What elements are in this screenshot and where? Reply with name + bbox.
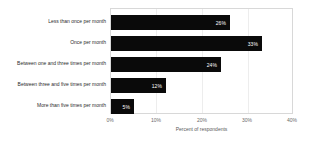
bar-4[interactable]: 5% — [111, 99, 134, 114]
category-label-3: Between three and five times per month — [0, 81, 106, 88]
category-label-4: More than five times per month — [0, 102, 106, 109]
bar-row[interactable]: 5% — [111, 99, 134, 114]
xtick-label-3: 30% — [242, 117, 252, 123]
bar-row[interactable]: 24% — [111, 57, 221, 72]
bar-row[interactable]: 26% — [111, 15, 230, 30]
bar-value-label: 12% — [152, 83, 162, 89]
bar-chart: 26% 33% 24% 12% 5% Less than once per mo… — [0, 0, 314, 143]
bar-value-label: 26% — [216, 20, 226, 26]
bar-2[interactable]: 24% — [111, 57, 221, 72]
bar-value-label: 24% — [207, 62, 217, 68]
xtick-label-2: 20% — [197, 117, 207, 123]
bar-value-label: 5% — [123, 104, 130, 110]
xtick-label-1: 10% — [151, 117, 161, 123]
bar-3[interactable]: 12% — [111, 78, 166, 93]
gridline-30pct — [248, 9, 249, 113]
bar-0[interactable]: 26% — [111, 15, 230, 30]
bar-row[interactable]: 33% — [111, 36, 262, 51]
bar-row[interactable]: 12% — [111, 78, 166, 93]
xtick-label-0: 0% — [106, 117, 113, 123]
x-axis-title: Percent of respondents — [110, 126, 293, 132]
category-label-2: Between one and three times per month — [0, 60, 106, 67]
bar-1[interactable]: 33% — [111, 36, 262, 51]
plot-area: 26% 33% 24% 12% 5% — [110, 8, 293, 114]
xtick-label-4: 40% — [287, 117, 297, 123]
category-label-1: Once per month — [0, 39, 106, 46]
bar-value-label: 33% — [248, 41, 258, 47]
category-label-0: Less than once per month — [0, 18, 106, 25]
